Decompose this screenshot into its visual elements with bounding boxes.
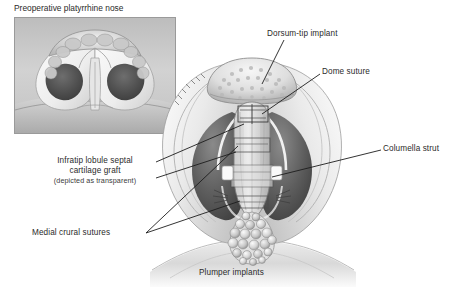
illustration-figure: Preoperative platyrrhine nose xyxy=(0,0,456,287)
label-medial-crural-sutures: Medial crural sutures xyxy=(32,228,110,238)
columella-strut-shape xyxy=(222,165,282,187)
label-columella-strut: Columella strut xyxy=(383,144,439,154)
label-infratip-line2: cartilage graft xyxy=(69,166,120,175)
label-dome-suture: Dome suture xyxy=(322,67,370,77)
label-dorsum-tip-implant: Dorsum-tip implant xyxy=(267,29,338,39)
label-infratip-line1: Infratip lobule septal xyxy=(57,156,132,165)
label-infratip-lobule-septal-cartilage-graft: Infratip lobule septal cartilage graft (… xyxy=(36,156,154,186)
label-infratip-note: (depicted as transparent) xyxy=(36,176,154,186)
label-plumper-implants: Plumper implants xyxy=(199,268,264,278)
